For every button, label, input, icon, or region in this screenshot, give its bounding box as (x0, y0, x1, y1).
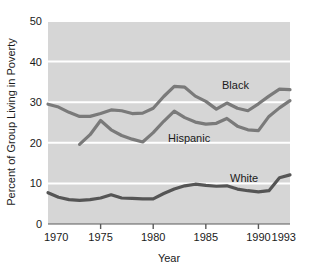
y-tick-label-0: 0 (36, 218, 42, 230)
x-tick-label-1980: 1980 (141, 231, 165, 243)
series-label-hispanic: Hispanic (168, 132, 211, 144)
x-tick-label-1975: 1975 (88, 231, 112, 243)
y-tick-label-40: 40 (30, 56, 42, 68)
y-tick-label-10: 10 (30, 177, 42, 189)
y-tick-label-30: 30 (30, 96, 42, 108)
x-axis-tick-labels: 197019751980198519901993 (44, 231, 296, 243)
poverty-rate-line-chart: 01020304050 197019751980198519901993 Per… (0, 0, 312, 276)
x-tick-label-1985: 1985 (194, 231, 218, 243)
x-axis-title: Year (158, 252, 181, 264)
y-axis-tick-labels: 01020304050 (30, 15, 42, 230)
series-label-black: Black (222, 79, 249, 91)
y-axis-title: Percent of Group Living in Poverty (5, 38, 17, 206)
x-axis-ticks (101, 224, 259, 229)
series-label-white: White (230, 172, 258, 184)
x-tick-label-1970: 1970 (44, 231, 68, 243)
y-tick-label-50: 50 (30, 15, 42, 27)
chart-canvas: 01020304050 197019751980198519901993 Per… (0, 0, 312, 276)
x-tick-label-1993: 1993 (272, 231, 296, 243)
y-tick-label-20: 20 (30, 137, 42, 149)
x-tick-label-1990: 1990 (246, 231, 270, 243)
plot-area-background (48, 21, 290, 224)
